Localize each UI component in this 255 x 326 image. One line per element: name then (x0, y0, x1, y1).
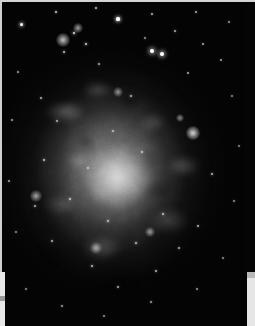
page-strip-left-notch (0, 296, 5, 301)
plate-right-edge (245, 0, 255, 272)
galaxy-image (2, 2, 247, 326)
screenshot-root: Grayscale photographic plate of a face-o… (0, 0, 255, 326)
galaxy-nucleus (76, 138, 159, 216)
page-strip-right (247, 278, 255, 326)
frame-border-top (0, 0, 255, 2)
